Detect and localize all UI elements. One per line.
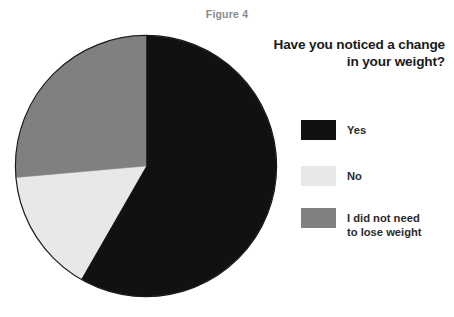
legend-swatch-no-need — [301, 208, 336, 228]
legend-label-no: No — [347, 166, 362, 183]
legend-label-no-need: I did not need to lose weight — [347, 208, 422, 239]
pie-slice-no-need[interactable] — [16, 36, 146, 178]
figure-canvas: Figure 4 Have you noticed a change in yo… — [0, 0, 454, 317]
pie-chart-svg — [14, 34, 278, 298]
legend-item-yes[interactable]: Yes — [301, 120, 366, 140]
pie-chart — [14, 34, 278, 298]
legend-swatch-yes — [301, 120, 336, 140]
chart-title-line-2: in your weight? — [213, 54, 445, 71]
figure-caption: Figure 4 — [0, 8, 454, 20]
chart-title: Have you noticed a change in your weight… — [213, 37, 445, 70]
chart-title-line-1: Have you noticed a change — [213, 37, 445, 54]
legend-item-no-need[interactable]: I did not need to lose weight — [301, 208, 422, 239]
legend-label-yes: Yes — [347, 120, 366, 137]
legend-swatch-no — [301, 166, 336, 186]
legend-item-no[interactable]: No — [301, 166, 362, 186]
pie-slices — [16, 36, 276, 296]
